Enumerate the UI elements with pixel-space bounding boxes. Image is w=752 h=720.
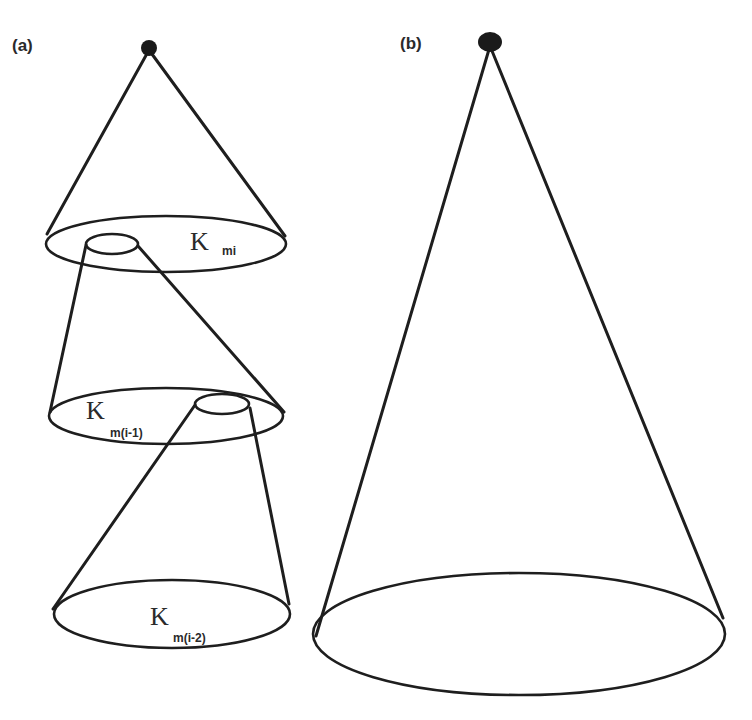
label-subscript: m(i-1)	[110, 426, 143, 440]
panel-b-label: (b)	[400, 34, 422, 53]
cone-level-m-i-1: K m(i-1)	[49, 245, 284, 444]
base-ellipse-m-i-2	[54, 580, 290, 648]
label-subscript: m(i-2)	[173, 631, 206, 645]
label-k: K	[86, 396, 105, 425]
cone-edge-right	[149, 50, 285, 236]
base-ellipse-large	[313, 573, 725, 695]
label-subscript: mi	[222, 244, 236, 258]
panel-a: (a) K mi K m(i-1) K m(i-2)	[12, 36, 290, 648]
label-k: K	[150, 602, 169, 631]
apex-node	[141, 40, 157, 56]
cone-edge-left	[50, 245, 86, 412]
apex-node	[478, 32, 502, 52]
cone-edge-left	[316, 46, 490, 636]
cone-edge-right	[490, 46, 723, 618]
sub-ellipse	[195, 394, 249, 414]
cone-level-mi: K mi	[46, 40, 286, 272]
cone-hierarchy-diagram: (a) K mi K m(i-1) K m(i-2)	[0, 0, 752, 720]
base-ellipse-m-i-1	[49, 388, 283, 444]
cone-level-m-i-2: K m(i-2)	[53, 405, 290, 648]
panel-a-label: (a)	[12, 36, 33, 55]
cone-edge-right	[250, 408, 289, 604]
sub-ellipse	[86, 234, 138, 254]
panel-b: (b)	[313, 32, 725, 695]
cone-edge-left	[47, 50, 149, 234]
label-k: K	[190, 227, 209, 256]
